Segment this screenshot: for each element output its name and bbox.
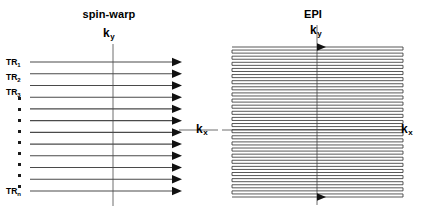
tr-ellipsis-dot [18, 152, 21, 155]
kx-axis-subscript: x [203, 128, 207, 137]
tr-label-n: TRn [6, 187, 21, 196]
tr-ellipsis-dot [18, 174, 21, 177]
tr-label-2-text: TR [6, 72, 17, 82]
spin-warp-arrowhead [172, 175, 182, 183]
spin-warp-arrowhead [172, 93, 182, 101]
spin-warp-arrowhead [172, 81, 182, 89]
kx-axis-label-text-epi: k [401, 122, 408, 136]
spin-warp-arrowhead [172, 140, 182, 148]
tr-ellipsis-dot [18, 163, 21, 166]
tr-label-1-subscript: 1 [17, 62, 20, 68]
tr-label-2-subscript: 2 [17, 77, 20, 83]
kx-axis-subscript-epi: x [408, 128, 412, 137]
kx-axis-label-epi: kx [401, 123, 412, 135]
panel-spin-warp: spin-warp ky kx TR1 TR2 TR3 TRn [0, 0, 218, 221]
spin-warp-arrowhead [172, 128, 182, 136]
tr-label-n-subscript: n [17, 191, 21, 197]
tr-label-3-text: TR [6, 87, 17, 97]
spin-warp-arrowhead [172, 163, 182, 171]
kx-axis-label-spin-warp: kx [196, 123, 207, 135]
spin-warp-arrowhead [172, 116, 182, 124]
ky-axis-subscript: y [110, 32, 114, 41]
tr-label-n-text: TR [6, 186, 17, 196]
tr-ellipsis-dot [18, 185, 21, 188]
epi-direction-arrows [317, 43, 326, 201]
spin-warp-arrowhead [172, 152, 182, 160]
kspace-trajectory-figure: spin-warp ky kx TR1 TR2 TR3 TRn [0, 0, 436, 221]
kx-axis-label-text: k [196, 122, 203, 136]
ky-axis-label-epi: ky [310, 24, 321, 36]
spin-warp-kspace-lines [30, 58, 182, 195]
ky-axis-label-text-epi: k [310, 23, 317, 37]
ky-axis-label-text: k [103, 26, 110, 40]
tr-label-1-text: TR [6, 57, 17, 67]
spin-warp-arrowhead [172, 70, 182, 78]
tr-ellipsis-dot [18, 108, 21, 111]
tr-ellipsis-dot [18, 119, 21, 122]
tr-ellipsis-dot [18, 97, 21, 100]
tr-label-3: TR3 [6, 88, 21, 97]
spin-warp-arrowhead [172, 105, 182, 113]
panel-title-spin-warp: spin-warp [0, 8, 218, 20]
tr-ellipsis-dot [18, 141, 21, 144]
spin-warp-arrowhead [172, 187, 182, 195]
panel-epi: EPI ky kx [218, 0, 436, 221]
ky-axis-label-spin-warp: ky [103, 27, 114, 39]
panel-title-epi: EPI [204, 8, 422, 20]
tr-label-1: TR1 [6, 58, 21, 67]
ky-axis-subscript-epi: y [317, 29, 321, 38]
epi-trajectory-svg [218, 0, 436, 221]
tr-ellipsis-dot [18, 130, 21, 133]
tr-label-2: TR2 [6, 73, 21, 82]
spin-warp-arrowhead [172, 58, 182, 66]
